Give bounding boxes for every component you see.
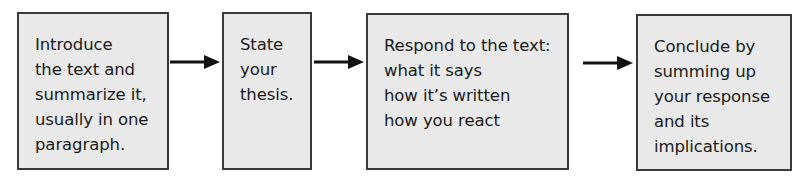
step-text-line: summarize it,	[35, 82, 167, 107]
arrow-right-icon	[170, 54, 220, 70]
step-text-line: the text and	[35, 57, 167, 82]
step-text-line: thesis.	[240, 82, 310, 107]
step-text-line: Respond to the text:	[384, 33, 567, 58]
step-text-line: your	[240, 57, 310, 82]
step-text-line: Introduce	[35, 32, 167, 57]
step-thesis-box: State your thesis.	[222, 12, 312, 170]
step-text-line: and its	[654, 109, 790, 134]
step-text-line: Conclude by	[654, 34, 790, 59]
step-text-line: usually in one	[35, 107, 167, 132]
step-text-line: implications.	[654, 134, 790, 159]
step-respond-box: Respond to the text: what it says how it…	[366, 13, 569, 170]
arrow-right-icon	[314, 54, 364, 70]
step-conclude-box: Conclude by summing up your response and…	[636, 14, 792, 171]
step-introduce-box: Introduce the text and summarize it, usu…	[17, 12, 169, 170]
step-text-line: paragraph.	[35, 132, 167, 157]
step-text-line: what it says	[384, 58, 567, 83]
step-text-line: how it’s written	[384, 83, 567, 108]
step-text-line: State	[240, 32, 310, 57]
step-text-line: your response	[654, 84, 790, 109]
step-text-line: how you react	[384, 108, 567, 133]
arrow-right-icon	[583, 55, 633, 71]
step-text-line: summing up	[654, 59, 790, 84]
